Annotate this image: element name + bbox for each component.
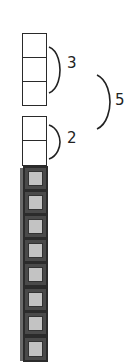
bracket-label-2: 2 [67,131,77,146]
bracket-label-3: 3 [67,56,77,71]
filled-cell [23,311,48,336]
empty-cell [22,116,47,141]
filled-cell [23,190,48,215]
bracket-2-icon [48,124,62,160]
empty-cell [22,33,47,58]
filled-cell [23,336,48,362]
bracket-3-icon [48,46,62,94]
empty-cell [22,140,47,166]
filled-cell [23,238,48,263]
filled-cell [23,262,48,287]
bracket-5-icon [96,74,112,130]
bracket-label-5: 5 [115,93,125,108]
filled-cell [23,166,48,191]
empty-cell [22,81,47,106]
filled-cell [23,287,48,312]
empty-cell [22,57,47,82]
filled-cell [23,214,48,239]
